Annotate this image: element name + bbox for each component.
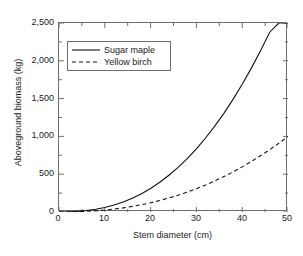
x-axis-title: Stem diameter (cm)	[58, 230, 287, 240]
legend-label: Yellow birch	[101, 57, 152, 67]
legend: Sugar maple Yellow birch	[67, 41, 171, 71]
x-tick-label: 10	[89, 214, 119, 223]
chart-figure: Aboveground biomass (kg) 2,500 2,000 1,5…	[0, 0, 303, 256]
x-tick-label: 30	[181, 214, 211, 223]
legend-label: Sugar maple	[101, 45, 155, 55]
legend-item-sugar-maple: Sugar maple	[71, 44, 167, 56]
x-tick-label: 0	[43, 214, 73, 223]
x-tick-label: 20	[135, 214, 165, 223]
legend-dashed-line-icon	[71, 57, 101, 67]
legend-solid-line-icon	[71, 45, 101, 55]
x-tick-label: 50	[272, 214, 302, 223]
series-line-yellow-birch	[59, 136, 288, 212]
x-tick-label: 40	[227, 214, 257, 223]
legend-item-yellow-birch: Yellow birch	[71, 56, 167, 68]
